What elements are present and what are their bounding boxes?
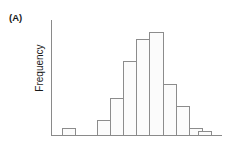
histogram-bar	[97, 121, 110, 136]
histogram-bar	[150, 33, 163, 136]
histogram-bar	[137, 40, 150, 136]
histogram-bar	[123, 62, 136, 136]
histogram-bars	[62, 33, 212, 136]
histogram-bar	[163, 84, 176, 136]
figure-panel: (A) Frequency	[0, 0, 230, 149]
histogram-bar	[110, 99, 123, 136]
histogram-bar	[62, 128, 75, 135]
histogram-bar	[176, 106, 189, 135]
histogram-plot	[0, 0, 230, 149]
